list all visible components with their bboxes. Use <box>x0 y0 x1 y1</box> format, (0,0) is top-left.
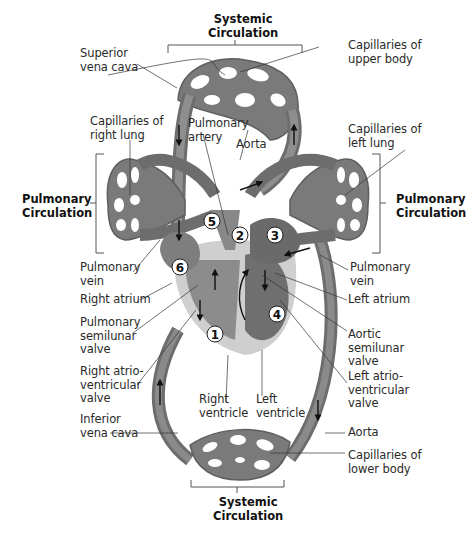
label-left-av-valve: Left atrio- ventricular valve <box>348 370 409 411</box>
label-capillaries-right-lung: Capillaries of right lung <box>90 115 163 142</box>
bracket-pulmonary-right <box>372 154 386 253</box>
label-right-ventricle: Right ventricle <box>199 393 248 420</box>
label-left-ventricle: Left ventricle <box>256 393 305 420</box>
step-3: 3 <box>267 227 283 243</box>
bracket-systemic-top <box>168 40 302 53</box>
step-1: 1 <box>207 326 223 342</box>
label-pulmonary-circulation-left: Pulmonary Circulation <box>22 193 92 220</box>
step-4: 4 <box>269 306 285 322</box>
label-inferior-vena-cava: Inferior vena cava <box>80 413 138 440</box>
svg-text:3: 3 <box>271 229 279 243</box>
svg-text:6: 6 <box>176 261 184 275</box>
svg-text:2: 2 <box>236 229 244 243</box>
svg-text:5: 5 <box>208 215 216 229</box>
label-aorta-bottom: Aorta <box>348 426 379 440</box>
svg-text:4: 4 <box>273 308 281 322</box>
label-superior-vena-cava: Superior vena cava <box>80 47 138 74</box>
label-capillaries-lower-body: Capillaries of lower body <box>348 449 421 476</box>
label-capillaries-upper-body: Capillaries of upper body <box>348 39 421 66</box>
label-pulmonary-vein-right: Pulmonary vein <box>350 261 410 288</box>
label-right-atrium: Right atrium <box>80 293 151 307</box>
label-aortic-semilunar-valve: Aortic semilunar valve <box>348 328 404 369</box>
step-6: 6 <box>172 259 188 275</box>
right-lung-capillaries <box>107 159 215 240</box>
label-pulmonary-circulation-right: Pulmonary Circulation <box>396 193 466 220</box>
label-left-atrium: Left atrium <box>348 293 410 307</box>
step-5: 5 <box>204 213 220 229</box>
label-aorta-top: Aorta <box>236 138 267 152</box>
svg-text:1: 1 <box>211 328 219 342</box>
step-2: 2 <box>232 227 248 243</box>
capillaries-lower-body-bed <box>190 430 290 480</box>
bracket-systemic-bottom <box>191 480 284 493</box>
label-systemic-circulation-bottom: Systemic Circulation <box>213 496 283 523</box>
label-systemic-circulation-top: Systemic Circulation <box>208 13 278 40</box>
label-capillaries-left-lung: Capillaries of left lung <box>348 123 421 150</box>
label-right-av-valve: Right atrio- ventricular valve <box>80 365 144 406</box>
label-pulmonary-vein-left: Pulmonary vein <box>80 261 140 288</box>
label-pulmonary-semilunar-valve: Pulmonary semilunar valve <box>80 316 140 357</box>
